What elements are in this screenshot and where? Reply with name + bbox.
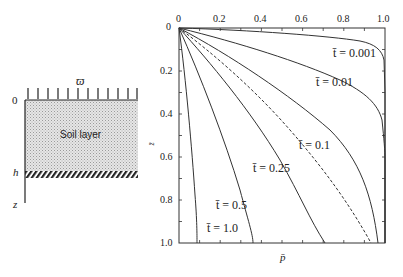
x-tick-label: 0.6 xyxy=(295,14,308,24)
profile-plot xyxy=(179,28,385,243)
x-tick-label: 1.0 xyxy=(377,14,390,24)
plot-frame xyxy=(179,28,385,243)
x-tick-label: 0.2 xyxy=(213,14,226,24)
impermeable-base-hatch xyxy=(25,171,138,178)
y-tick-label: 1.0 xyxy=(160,238,173,248)
curve-label-t-0.001: t̄ = 0.001 xyxy=(333,47,376,59)
x-axis-title: p̄ xyxy=(280,252,286,263)
y-ticks xyxy=(179,50,385,222)
y-tick-label: 0.2 xyxy=(160,66,173,76)
load-arrows xyxy=(28,88,137,99)
y-tick-label: 0.8 xyxy=(160,195,173,205)
y-tick-label: 0 xyxy=(166,22,171,32)
x-tick-label: 0.8 xyxy=(337,14,350,24)
x-tick-label: 0.4 xyxy=(254,14,267,24)
curve-t-0.25 xyxy=(179,28,325,243)
x-tick-label: 0 xyxy=(176,14,181,24)
curve-label-t-0.1: t̄ = 0.1 xyxy=(299,139,330,151)
y-axis-title: z̄ xyxy=(148,142,156,145)
surface-depth-label: 0 xyxy=(12,95,18,106)
y-tick-label: 0.6 xyxy=(160,152,173,162)
curve-t-0.001 xyxy=(179,28,385,243)
load-symbol: ϖ xyxy=(76,75,84,87)
soil-schematic xyxy=(25,88,138,203)
figure: ϖ 0 Soil layer h z 0 0.2 0.4 0.6 0.8 1.0… xyxy=(0,0,403,277)
curve-label-t-0.25: t̄ = 0.25 xyxy=(253,162,290,174)
layer-thickness-label: h xyxy=(13,167,19,178)
curves xyxy=(179,28,385,243)
curve-label-t-0.01: t̄ = 0.01 xyxy=(316,76,353,88)
curve-t-0.01 xyxy=(179,28,385,243)
y-tick-label: 0.4 xyxy=(160,109,173,119)
soil-layer-label: Soil layer xyxy=(60,130,101,140)
depth-axis-label: z xyxy=(13,199,17,210)
curve-t-0.1 xyxy=(179,28,378,243)
curve-label-t-0.5: t̄ = 0.5 xyxy=(216,199,247,211)
curve-label-t-1.0: t̄ = 1.0 xyxy=(207,222,238,234)
